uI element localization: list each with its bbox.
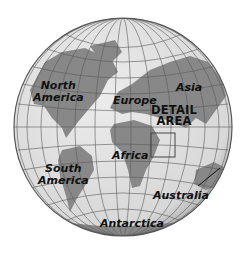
- globe-map: [0, 0, 248, 253]
- label-asia: Asia: [176, 82, 202, 94]
- label-australia: Australia: [153, 190, 209, 202]
- label-north-america: North America: [33, 80, 84, 104]
- label-africa: Africa: [112, 150, 148, 162]
- label-detail-area: DETAIL AREA: [151, 105, 197, 127]
- label-antarctica: Antarctica: [100, 218, 164, 230]
- label-south-america: South America: [38, 163, 89, 187]
